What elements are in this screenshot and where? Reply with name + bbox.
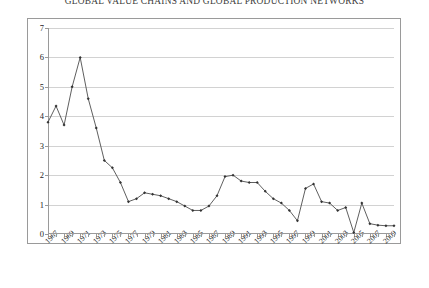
data-point-marker [55,104,58,107]
x-axis-tick-mark [362,234,363,237]
data-point-marker [71,85,74,88]
series-polyline [48,57,394,232]
page-header-title: GLOBAL VALUE CHAINS AND GLOBAL PRODUCTIO… [0,0,429,6]
y-axis-tick-label: 4 [40,111,44,121]
data-point-marker [393,224,396,227]
x-axis-tick-mark [281,234,282,237]
data-point-marker [248,181,251,184]
y-axis-tick-label: 7 [40,23,44,33]
x-axis-tick-mark [265,234,266,237]
data-point-marker [127,200,130,203]
x-axis-tick-mark [137,234,138,237]
x-axis-tick-mark [217,234,218,237]
x-axis-tick-mark [120,234,121,237]
data-point-marker [79,56,82,59]
chart-container: 01234567 1967196919711973197519771979198… [27,18,401,244]
x-axis-tick-mark [378,234,379,237]
data-point-marker [87,97,90,100]
data-point-marker [376,224,379,227]
data-point-marker [95,127,98,130]
data-point-marker [320,200,323,203]
y-axis-tick-label: 3 [40,141,44,151]
x-axis-tick-mark [346,234,347,237]
y-axis-tick-label: 2 [40,170,44,180]
data-point-marker [384,224,387,227]
data-point-marker [360,202,363,205]
x-axis-tick-mark [169,234,170,237]
x-axis-tick-mark [249,234,250,237]
x-axis-tick-mark [153,234,154,237]
data-point-marker [368,222,371,225]
chart-plot-inner: 01234567 1967196919711973197519771979198… [48,28,394,234]
x-axis-tick-mark [201,234,202,237]
x-axis-tick-mark [314,234,315,237]
data-point-marker [344,206,347,209]
x-axis-tick-mark [330,234,331,237]
x-axis-tick-mark [233,234,234,237]
data-point-marker [151,193,154,196]
y-axis-tick-label: 6 [40,52,44,62]
x-axis-tick-mark [297,234,298,237]
data-point-marker [167,197,170,200]
data-point-marker [224,175,227,178]
chart-plot-area: 01234567 1967196919711973197519771979198… [48,28,394,234]
data-point-marker [63,124,66,127]
data-point-marker [159,194,162,197]
data-point-marker [352,231,355,234]
x-axis-tick-mark [185,234,186,237]
x-axis-tick-mark [56,234,57,237]
x-axis-tick-mark [394,234,395,237]
y-axis-tick-label: 5 [40,82,44,92]
y-axis-tick-label: 1 [40,200,44,210]
data-point-marker [47,121,50,124]
chart-series-line [48,28,394,234]
x-axis-tick-mark [104,234,105,237]
x-axis-tick-mark [88,234,89,237]
page-root: GLOBAL VALUE CHAINS AND GLOBAL PRODUCTIO… [0,0,429,288]
x-axis-tick-mark [72,234,73,237]
